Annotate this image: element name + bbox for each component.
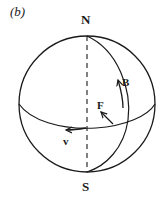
equator bbox=[19, 104, 155, 128]
vector-v-label: v bbox=[63, 136, 69, 147]
south-pole-label: S bbox=[82, 180, 89, 193]
panel-label: (b) bbox=[10, 5, 25, 18]
sphere-drawing bbox=[0, 0, 164, 197]
vector-f-arrow bbox=[101, 112, 113, 124]
vector-f-label: F bbox=[97, 100, 104, 111]
sphere-diagram: (b) N S B F v bbox=[0, 0, 164, 197]
north-pole-label: N bbox=[81, 13, 90, 26]
vector-b-label: B bbox=[122, 77, 129, 88]
